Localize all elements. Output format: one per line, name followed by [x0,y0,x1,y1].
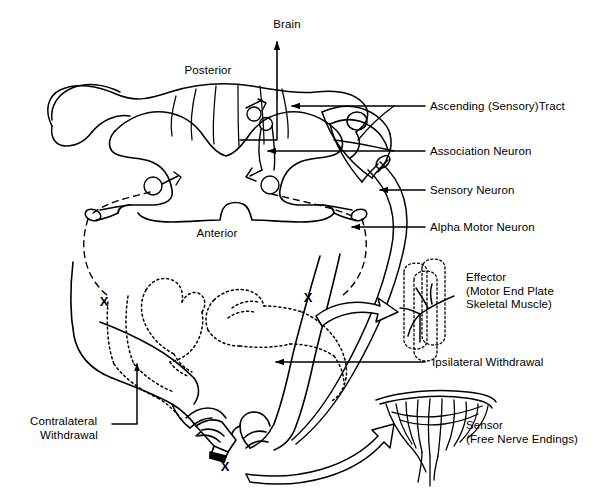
gray-matter-butterfly [109,112,342,222]
label-sensory-neuron: Sensory Neuron [430,184,515,198]
label-contralateral-group: Contralateral Withdrawal [30,415,98,442]
dorsal-columns [171,85,288,146]
dorsal-root-right [322,106,392,182]
label-brain: Brain [273,18,300,32]
right-arm-solid [231,254,340,450]
label-effector-line2: (Motor End Plate [466,285,554,299]
label-contralateral-line2: Withdrawal [30,429,98,443]
label-effector-line3: Skeletal Muscle) [466,298,554,312]
x-mark-right-arm: X [304,291,313,304]
label-anterior: Anterior [196,227,237,241]
spinal-cord-outline [48,84,368,158]
left-arm-solid [71,262,226,438]
label-posterior: Posterior [185,64,232,78]
x-mark-stimulus: X [221,460,230,473]
stimulus-object [196,420,236,462]
x-mark-left-arm: X [100,295,109,308]
contralateral-leader [112,364,137,424]
label-alpha-motor-neuron: Alpha Motor Neuron [430,221,535,235]
label-effector-group: Effector (Motor End Plate Skeletal Muscl… [466,271,554,312]
ventral-root-left [84,205,130,223]
label-sensor-group: Sensor (Free Nerve Endings) [466,419,578,446]
label-sensor-line1: Sensor [466,419,578,433]
label-ascending-tract: Ascending (Sensory)Tract [430,100,565,114]
label-association-neuron: Association Neuron [430,145,532,159]
hand-dotted-upper-left [142,278,205,376]
label-contralateral-line1: Contralateral [30,415,98,429]
label-effector-line1: Effector [466,271,554,285]
right-arm-dotted-original [206,289,347,402]
reflex-arc-figure: Brain Posterior Anterior Ascending (Sens… [0,0,610,498]
effector-muscle [400,259,454,361]
label-ipsilateral-withdrawal: Ipsilateral Withdrawal [432,356,544,370]
label-sensor-line2: (Free Nerve Endings) [466,433,578,447]
